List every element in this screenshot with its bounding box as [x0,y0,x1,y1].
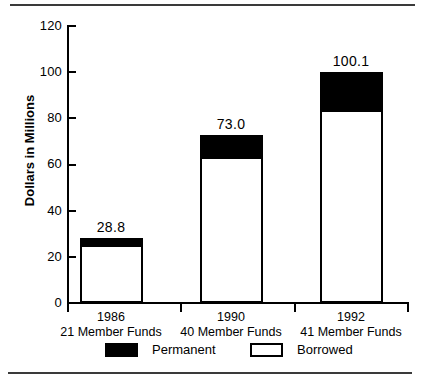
x-category-1992-sublabel: 41 Member Funds [266,325,425,340]
bar-1986-permanent-segment [82,240,141,247]
y-tick-40 [69,210,76,212]
y-axis-title: Dollars in Millions [22,51,37,251]
legend-label-borrowed: Borrowed [297,343,353,357]
y-tick-label-20: 20 [18,250,62,263]
y-tick-60 [69,164,76,166]
top-divider-rule [10,4,415,6]
y-tick-label-0: 0 [18,296,62,309]
y-tick-80 [69,117,76,119]
legend-label-permanent: Permanent [152,343,216,357]
y-tick-0 [69,302,76,304]
bar-1990-permanent-segment [202,137,261,159]
legend-swatch-permanent [105,343,138,357]
bar-1986[interactable] [80,238,143,303]
chart-figure: 120 100 80 60 40 20 0 Dollars in Million… [0,0,425,380]
x-category-1992-year: 1992 [266,310,425,325]
x-category-1992: 1992 41 Member Funds [266,310,425,340]
y-tick-20 [69,256,76,258]
bar-1990-value-label: 73.0 [186,117,276,131]
bar-1986-value-label: 28.8 [66,220,156,234]
y-tick-120 [69,25,76,27]
bottom-divider-rule [8,372,412,374]
y-tick-label-120: 120 [18,19,62,32]
chart-legend: Permanent Borrowed [0,341,425,361]
y-tick-100 [69,71,76,73]
bar-1992[interactable] [320,72,383,303]
bar-1992-permanent-segment [322,74,381,112]
bar-1990[interactable] [200,135,263,303]
bar-1992-value-label: 100.1 [306,54,396,68]
legend-swatch-borrowed [250,343,283,357]
